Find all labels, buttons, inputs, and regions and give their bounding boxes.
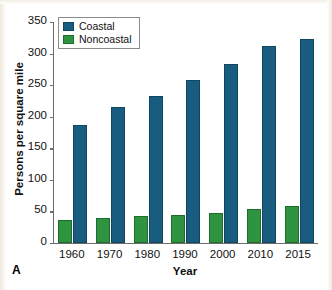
y-axis-tick-label: 50 xyxy=(34,203,47,215)
bar-noncoastal-2000 xyxy=(209,213,223,243)
y-axis-tick-label: 150 xyxy=(28,140,47,152)
legend-item-coastal: Coastal xyxy=(63,21,132,32)
bar-group-1990 xyxy=(169,22,202,243)
chart-legend: Coastal Noncoastal xyxy=(58,17,140,49)
x-axis-tick-labels: 1960197019801990200020102015 xyxy=(53,248,317,264)
y-axis-tick: 100 xyxy=(24,180,54,181)
bar-group-2015 xyxy=(283,22,316,243)
bar-coastal-2010 xyxy=(262,46,276,243)
page-edge-right xyxy=(327,0,332,290)
y-axis-tick: 200 xyxy=(24,117,54,118)
y-axis-tick-label: 200 xyxy=(28,109,47,121)
x-axis-tick-label: 2000 xyxy=(206,248,239,264)
y-axis-tick-label: 350 xyxy=(28,14,47,26)
legend-swatch-noncoastal xyxy=(63,35,74,44)
bar-noncoastal-1960 xyxy=(58,220,72,243)
y-axis-title: Persons per square mile xyxy=(13,29,27,229)
y-axis-tick: 50 xyxy=(24,211,54,212)
bar-group-1970 xyxy=(94,22,127,243)
panel-label: A xyxy=(12,263,21,277)
y-axis-tick: 300 xyxy=(24,54,54,55)
x-axis-tick-label: 1980 xyxy=(131,248,164,264)
page-edge-top xyxy=(0,0,332,4)
figure-panel-a: Persons per square mile 3503002502001501… xyxy=(0,0,332,290)
bar-noncoastal-1970 xyxy=(96,218,110,243)
y-axis-tick: 150 xyxy=(24,148,54,149)
bar-group-2010 xyxy=(245,22,278,243)
y-axis-tick: 250 xyxy=(24,85,54,86)
bar-coastal-1980 xyxy=(149,96,163,243)
bar-group-1960 xyxy=(56,22,89,243)
x-axis-tick-label: 1960 xyxy=(55,248,88,264)
bar-noncoastal-1990 xyxy=(171,215,185,243)
bar-coastal-1960 xyxy=(73,125,87,243)
page-edge-left xyxy=(0,0,6,290)
x-axis-title: Year xyxy=(53,265,317,277)
bar-noncoastal-1980 xyxy=(134,216,148,243)
bar-coastal-1990 xyxy=(186,80,200,243)
plot-area: Persons per square mile 3503002502001501… xyxy=(53,22,318,244)
x-axis-tick-label: 1990 xyxy=(168,248,201,264)
y-axis-tick-label: 0 xyxy=(41,235,47,247)
bar-coastal-2000 xyxy=(224,64,238,243)
legend-item-noncoastal: Noncoastal xyxy=(63,34,132,45)
bar-noncoastal-2015 xyxy=(285,206,299,243)
y-axis-tick: 350 xyxy=(24,22,54,23)
bar-group-1980 xyxy=(132,22,165,243)
legend-label-coastal: Coastal xyxy=(79,21,115,32)
bar-noncoastal-2010 xyxy=(247,209,261,243)
x-axis-tick-label: 2010 xyxy=(244,248,277,264)
legend-swatch-coastal xyxy=(63,22,74,31)
y-axis-tick: 0 xyxy=(24,243,54,244)
y-axis-tick-label: 300 xyxy=(28,46,47,58)
bar-coastal-2015 xyxy=(300,39,314,243)
x-axis-tick-label: 2015 xyxy=(282,248,315,264)
y-axis-tick-mark xyxy=(50,243,54,244)
bar-groups xyxy=(54,22,318,243)
y-axis-tick-label: 250 xyxy=(28,77,47,89)
bar-coastal-1970 xyxy=(111,107,125,243)
legend-label-noncoastal: Noncoastal xyxy=(79,34,132,45)
bar-group-2000 xyxy=(207,22,240,243)
x-axis-tick-label: 1970 xyxy=(93,248,126,264)
y-axis-tick-label: 100 xyxy=(28,172,47,184)
